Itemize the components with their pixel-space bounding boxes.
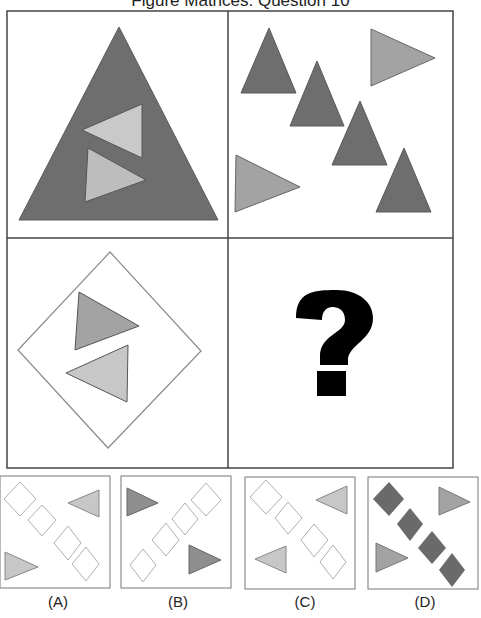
option-a-label: (A) [48, 593, 68, 610]
option-b-label: (B) [168, 593, 188, 610]
option-d-label: (D) [415, 593, 436, 610]
option-a-figure[interactable] [0, 476, 110, 588]
option-c-label: (C) [295, 593, 316, 610]
option-c-figure[interactable] [245, 477, 355, 589]
question-mark-dot [317, 371, 346, 396]
option-b-figure[interactable] [121, 476, 231, 588]
option-d-figure[interactable] [368, 477, 478, 589]
